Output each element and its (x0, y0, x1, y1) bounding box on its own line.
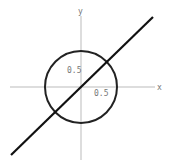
y-tick-label: 0.5 (67, 66, 82, 75)
y-axis-label: y (78, 7, 83, 16)
diagonal-line (11, 17, 153, 155)
x-tick-label: 0.5 (94, 89, 109, 98)
diagram-canvas: y x 0.5 0.5 (0, 0, 169, 166)
x-axis-label: x (157, 83, 162, 92)
